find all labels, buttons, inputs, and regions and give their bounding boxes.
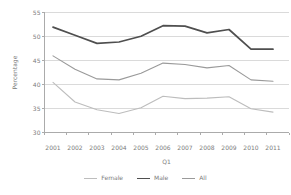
x-tick-label: 2008: [196, 144, 218, 151]
legend-item-male: Male: [137, 174, 168, 182]
line-chart: Percentage Q1 FemaleMaleAll 303540455055…: [0, 0, 291, 195]
legend-swatch-female: [84, 178, 97, 179]
x-tick-label: 2002: [64, 144, 86, 151]
series-line-all: [53, 56, 273, 81]
x-tick-label: 2007: [174, 144, 196, 151]
y-tick-label: 55: [25, 9, 41, 16]
y-tick-label: 45: [25, 57, 41, 64]
legend-label: All: [199, 174, 206, 182]
y-tick-label: 30: [25, 129, 41, 136]
legend-label: Female: [101, 174, 123, 182]
legend-item-female: Female: [84, 174, 123, 182]
y-tick-label: 50: [25, 33, 41, 40]
legend-swatch-male: [137, 178, 150, 179]
legend-item-all: All: [182, 174, 206, 182]
x-tick-label: 2003: [86, 144, 108, 151]
x-tick-label: 2010: [240, 144, 262, 151]
legend: FemaleMaleAll: [0, 174, 291, 182]
x-tick-label: 2009: [218, 144, 240, 151]
y-axis-title: Percentage: [11, 51, 18, 95]
y-tick-label: 40: [25, 81, 41, 88]
legend-swatch-all: [182, 178, 195, 179]
plot-svg: [0, 0, 291, 195]
x-tick-label: 2006: [152, 144, 174, 151]
y-tick-label: 35: [25, 105, 41, 112]
x-tick-label: 2005: [130, 144, 152, 151]
legend-label: Male: [154, 174, 168, 182]
x-tick-label: 2001: [42, 144, 64, 151]
x-axis-title: Q1: [44, 158, 289, 165]
x-tick-label: 2004: [108, 144, 130, 151]
x-tick-label: 2011: [262, 144, 284, 151]
series-line-male: [53, 26, 273, 50]
